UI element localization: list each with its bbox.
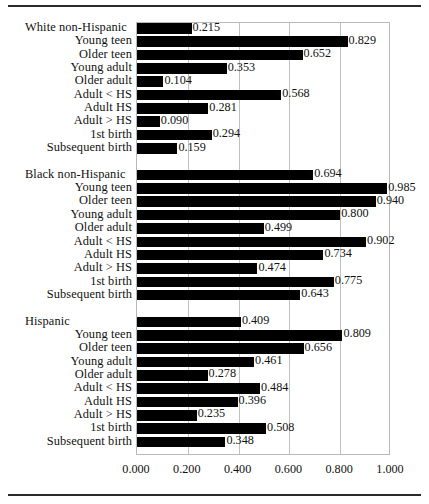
bar xyxy=(137,317,241,328)
category-label: Young adult xyxy=(71,208,132,221)
category-label: Adult < HS xyxy=(74,235,132,248)
bar-value-label: 0.809 xyxy=(343,327,370,340)
bar xyxy=(137,437,225,448)
category-label: Subsequent birth xyxy=(47,141,132,154)
category-label: Older adult xyxy=(75,74,132,87)
category-label: Adult > HS xyxy=(74,408,132,421)
bar-row: Young teen0.829 xyxy=(0,35,429,48)
category-label: Young teen xyxy=(75,34,132,47)
bar-value-label: 0.800 xyxy=(341,207,368,220)
category-label: Young teen xyxy=(75,328,132,341)
bar xyxy=(137,223,264,234)
bar xyxy=(137,370,208,381)
bar-row: Subsequent birth0.159 xyxy=(0,142,429,155)
category-label: Older teen xyxy=(79,48,132,61)
bar-value-label: 0.652 xyxy=(304,47,331,60)
bar xyxy=(137,196,376,207)
bar-row: Adult > HS0.474 xyxy=(0,262,429,275)
bar xyxy=(137,357,254,368)
bar-row: Young adult0.353 xyxy=(0,62,429,75)
bar xyxy=(137,143,177,154)
bar-row: Older adult0.104 xyxy=(0,75,429,88)
bar-row: Adult < HS0.484 xyxy=(0,382,429,395)
category-label: Older teen xyxy=(79,194,132,207)
bar xyxy=(137,290,300,301)
category-label: Older adult xyxy=(75,368,132,381)
category-label: Adult > HS xyxy=(74,114,132,127)
bar-value-label: 0.508 xyxy=(267,421,294,434)
bar-value-label: 0.643 xyxy=(301,287,328,300)
bar xyxy=(137,250,323,261)
bar-value-label: 0.215 xyxy=(193,21,220,34)
bar-value-label: 0.484 xyxy=(261,381,288,394)
bar xyxy=(137,50,303,61)
bar xyxy=(137,130,212,141)
bar-value-label: 0.829 xyxy=(349,34,376,47)
bar-value-label: 0.656 xyxy=(305,341,332,354)
bottom-rule xyxy=(8,494,421,496)
top-rule xyxy=(8,5,421,7)
bar-value-label: 0.499 xyxy=(265,221,292,234)
bar-value-label: 0.461 xyxy=(255,354,282,367)
category-label: Subsequent birth xyxy=(47,288,132,301)
figure: White non-Hispanic0.215Young teen0.829Ol… xyxy=(0,0,429,504)
bar-value-label: 0.090 xyxy=(161,114,188,127)
bar-row: Adult > HS0.235 xyxy=(0,409,429,422)
x-axis-tick-labels: 0.0000.2000.4000.6000.8001.000 xyxy=(0,462,429,480)
category-label: Adult > HS xyxy=(74,261,132,274)
bar xyxy=(137,410,197,421)
bar-value-label: 0.409 xyxy=(242,314,269,327)
bar xyxy=(137,210,340,221)
bar xyxy=(137,330,342,341)
bar-value-label: 0.474 xyxy=(258,261,285,274)
bar-row: Subsequent birth0.348 xyxy=(0,436,429,449)
bar-row: Older teen0.652 xyxy=(0,49,429,62)
bar-value-label: 0.348 xyxy=(226,434,253,447)
bar-row: Adult < HS0.902 xyxy=(0,236,429,249)
group-label: Black non-Hispanic xyxy=(25,168,126,181)
bar-value-label: 0.281 xyxy=(209,101,236,114)
bar-row: Older adult0.499 xyxy=(0,222,429,235)
bar xyxy=(137,170,313,181)
bar-value-label: 0.353 xyxy=(228,61,255,74)
bar-value-label: 0.734 xyxy=(324,247,351,260)
bar-value-label: 0.694 xyxy=(314,167,341,180)
bar-value-label: 0.940 xyxy=(377,194,404,207)
category-label: Adult < HS xyxy=(74,88,132,101)
category-label: Subsequent birth xyxy=(47,435,132,448)
bar-row: Adult HS0.734 xyxy=(0,249,429,262)
bar-row: Subsequent birth0.643 xyxy=(0,289,429,302)
category-label: Older teen xyxy=(79,341,132,354)
bar xyxy=(137,23,192,34)
bar-value-label: 0.278 xyxy=(209,367,236,380)
x-tick-label: 0.600 xyxy=(275,462,302,477)
category-label: Adult < HS xyxy=(74,381,132,394)
bar-value-label: 0.568 xyxy=(282,87,309,100)
bar xyxy=(137,263,257,274)
x-tick-label: 0.000 xyxy=(122,462,149,477)
bar-value-label: 0.902 xyxy=(367,234,394,247)
bar-value-label: 0.775 xyxy=(335,274,362,287)
bar xyxy=(137,90,281,101)
category-label: 1st birth xyxy=(90,128,132,141)
bar xyxy=(137,183,387,194)
x-tick-label: 0.800 xyxy=(325,462,352,477)
bar-value-label: 0.235 xyxy=(198,407,225,420)
category-label: Older adult xyxy=(75,221,132,234)
group-label: White non-Hispanic xyxy=(25,21,127,34)
bar-value-label: 0.294 xyxy=(213,127,240,140)
x-tick-label: 1.000 xyxy=(376,462,403,477)
bar-row: Older teen0.656 xyxy=(0,342,429,355)
bar xyxy=(137,116,160,127)
bar-row: Adult HS0.281 xyxy=(0,102,429,115)
group-header-row: Black non-Hispanic0.694 xyxy=(0,169,429,182)
bar-value-label: 0.396 xyxy=(239,394,266,407)
bar-value-label: 0.985 xyxy=(388,181,415,194)
category-label: Young teen xyxy=(75,181,132,194)
bar-row: Young adult0.800 xyxy=(0,209,429,222)
bar-value-label: 0.159 xyxy=(178,141,205,154)
group-label: Hispanic xyxy=(25,315,70,328)
bar xyxy=(137,76,163,87)
bar-rows: White non-Hispanic0.215Young teen0.829Ol… xyxy=(0,22,429,455)
category-label: Adult HS xyxy=(84,101,132,114)
